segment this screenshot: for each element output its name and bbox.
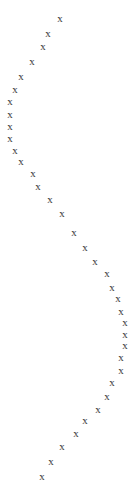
scatter-marker-x: x (118, 365, 124, 376)
scatter-marker-x: x (104, 268, 110, 279)
scatter-marker-x: x (115, 293, 121, 304)
scatter-marker-x: x (47, 194, 53, 205)
scatter-marker-x: x (109, 377, 115, 388)
scatter-plot-canvas: xxxxxxxxxxxxxxxxxxxxxxxxxxxxxxxxxxxx (0, 0, 135, 493)
scatter-marker-x: x (12, 145, 18, 156)
scatter-marker-x: x (82, 242, 88, 253)
scatter-marker-x: x (7, 121, 13, 132)
scatter-marker-x: x (71, 227, 77, 238)
scatter-marker-x: x (30, 168, 36, 179)
scatter-marker-x: x (7, 109, 13, 120)
scatter-marker-x: x (48, 456, 54, 467)
scatter-marker-x: x (29, 56, 35, 67)
scatter-marker-x: x (73, 428, 79, 439)
scatter-marker-x: x (40, 41, 46, 52)
scatter-marker-x: x (59, 208, 65, 219)
scatter-marker-x: x (92, 256, 98, 267)
scatter-marker-x: x (7, 96, 13, 107)
scatter-marker-x: x (57, 13, 63, 24)
scatter-marker-x: x (18, 71, 24, 82)
scatter-marker-x: x (12, 84, 18, 95)
scatter-marker-x: x (122, 317, 128, 328)
scatter-marker-x: x (95, 404, 101, 415)
scatter-marker-x: x (35, 181, 41, 192)
scatter-marker-x: x (18, 156, 24, 167)
scatter-marker-x: x (59, 441, 65, 452)
scatter-marker-x: x (7, 133, 13, 144)
scatter-marker-x: x (118, 352, 124, 363)
scatter-marker-x: x (122, 340, 128, 351)
scatter-marker-x: x (45, 28, 51, 39)
scatter-marker-x: x (39, 471, 45, 482)
scatter-marker-x: x (82, 415, 88, 426)
scatter-marker-x: x (104, 391, 110, 402)
scatter-marker-x: x (109, 282, 115, 293)
